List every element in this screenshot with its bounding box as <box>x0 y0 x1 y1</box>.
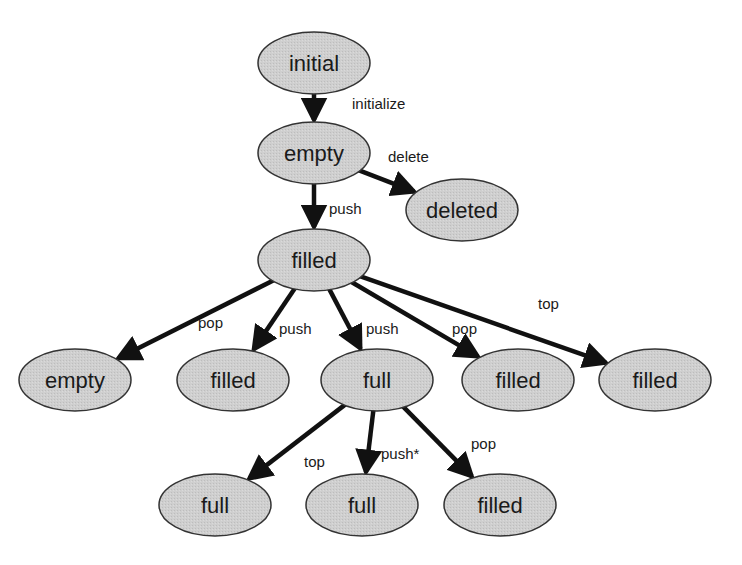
state-label: filled <box>495 368 540 393</box>
state-label: full <box>201 493 229 518</box>
state-node-filled: filled <box>258 229 370 291</box>
state-node-initial: initial <box>258 32 370 94</box>
transition-arrow-push <box>366 408 374 472</box>
state-node-deleted: deleted <box>406 179 518 241</box>
transition-label: pop <box>471 435 496 452</box>
transition-label: delete <box>388 148 429 165</box>
state-label: full <box>348 493 376 518</box>
transition-arrow-pop <box>118 279 275 358</box>
state-node-full: full <box>321 349 433 411</box>
state-label: filled <box>632 368 677 393</box>
transition-arrow-pop <box>350 281 478 356</box>
state-label: filled <box>210 368 255 393</box>
transition-label: top <box>304 453 325 470</box>
transition-arrow-top <box>249 403 347 478</box>
transition-arrow-delete <box>357 170 414 192</box>
transition-label: push <box>279 320 312 337</box>
state-node-empty: empty <box>19 349 131 411</box>
state-node-empty: empty <box>258 122 370 184</box>
state-label: filled <box>477 493 522 518</box>
transition-label: push <box>366 320 399 337</box>
transition-label: pop <box>452 320 477 337</box>
transition-label: initialize <box>352 95 405 112</box>
state-node-full: full <box>159 474 271 536</box>
transition-label: top <box>538 295 559 312</box>
state-label: empty <box>45 368 105 393</box>
transition-arrow-push <box>254 287 296 350</box>
transition-label: push <box>329 200 362 217</box>
state-label: empty <box>284 141 344 166</box>
transition-arrow-push <box>328 287 360 348</box>
state-label: deleted <box>426 198 498 223</box>
state-node-full: full <box>306 474 418 536</box>
state-node-filled: filled <box>599 349 711 411</box>
transition-arrow-pop <box>402 405 472 476</box>
state-label: full <box>363 368 391 393</box>
state-node-filled: filled <box>462 349 574 411</box>
transition-label: push* <box>381 445 420 462</box>
state-label: initial <box>289 51 339 76</box>
state-diagram: initialemptydeletedfilledemptyfilledfull… <box>0 0 742 565</box>
transition-label: pop <box>198 314 223 331</box>
state-node-filled: filled <box>177 349 289 411</box>
state-node-filled: filled <box>444 474 556 536</box>
state-label: filled <box>291 248 336 273</box>
